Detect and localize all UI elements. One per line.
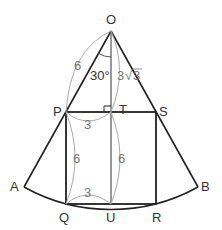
label-T: T bbox=[119, 102, 127, 117]
measure-label-TU: 6 bbox=[118, 151, 125, 166]
measure-label-OT-rad: 3 bbox=[133, 68, 140, 83]
label-P: P bbox=[53, 104, 62, 119]
label-U: U bbox=[106, 210, 115, 225]
label-O: O bbox=[106, 12, 116, 27]
measure-label-QU: 3 bbox=[84, 185, 91, 200]
label-S: S bbox=[159, 104, 168, 119]
segment-OA bbox=[24, 31, 111, 187]
label-B: B bbox=[201, 179, 210, 194]
measure-label-PQ: 6 bbox=[73, 151, 80, 166]
label-Q: Q bbox=[59, 210, 69, 225]
label-R: R bbox=[152, 210, 161, 225]
label-A: A bbox=[10, 179, 19, 194]
angle-arc-30 bbox=[99, 54, 112, 58]
measure-label-PT: 3 bbox=[84, 117, 91, 132]
sqrt-symbol: √ bbox=[125, 68, 133, 83]
measure-label-angle: 30° bbox=[90, 68, 110, 83]
measure-label-OP: 6 bbox=[74, 58, 81, 73]
geometry-diagram: O P T S Q U R A B 6 30° 3 √ 3 3 6 6 3 bbox=[0, 0, 222, 230]
measure-label-OT-coef: 3 bbox=[117, 68, 124, 83]
